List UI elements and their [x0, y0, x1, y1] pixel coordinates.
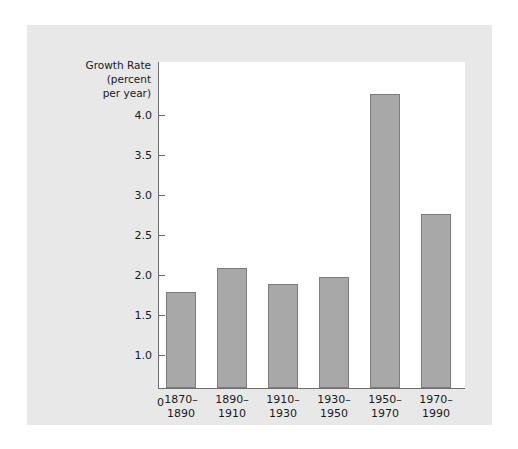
y-tick-mark-1.5 [158, 315, 165, 316]
bar-1870-1890[interactable] [166, 292, 196, 388]
y-tick-label-2.0: 2.0 [92, 270, 152, 281]
bar-1930-1950[interactable] [319, 277, 349, 388]
y-tick-mark-1.0 [158, 355, 165, 356]
y-tick-label-1.5: 1.5 [92, 310, 152, 321]
figure-panel: Growth Rate (percent per year) 4.0 3.5 3… [27, 25, 492, 425]
x-tick-label-1970-1990: 1970– 1990 [406, 393, 466, 421]
y-tick-mark-3.0 [158, 195, 165, 196]
y-axis-title: Growth Rate (percent per year) [31, 58, 151, 100]
y-tick-label-4.0: 4.0 [92, 110, 152, 121]
y-axis-line [158, 62, 159, 388]
plot-area [158, 62, 465, 388]
bar-1950-1970[interactable] [370, 94, 400, 388]
y-tick-label-3.5: 3.5 [92, 150, 152, 161]
y-tick-label-3.0: 3.0 [92, 190, 152, 201]
y-tick-label-2.5: 2.5 [92, 230, 152, 241]
y-tick-label-1.0: 1.0 [92, 350, 152, 361]
x-axis-line [158, 388, 465, 389]
y-tick-mark-2.0 [158, 275, 165, 276]
bar-1890-1910[interactable] [217, 268, 247, 388]
y-tick-mark-2.5 [158, 235, 165, 236]
bar-1910-1930[interactable] [268, 284, 298, 388]
y-tick-mark-3.5 [158, 155, 165, 156]
bar-1970-1990[interactable] [421, 214, 451, 388]
y-tick-mark-4.0 [158, 115, 165, 116]
